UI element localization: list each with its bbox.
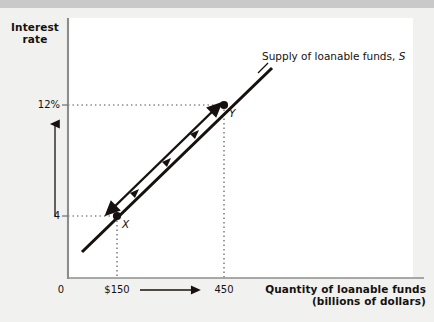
- point-x-label: X: [122, 219, 129, 231]
- x-tick-label-450: 450: [202, 284, 246, 295]
- y-tick-label-12: 12%: [24, 99, 60, 110]
- economics-supply-curve-figure: Interestrate Quantity of loanable funds(…: [0, 0, 434, 322]
- x-axis-title-line1: Quantity of loanable funds: [265, 283, 426, 295]
- supply-curve-label: Supply of loanable funds, S: [262, 51, 405, 63]
- point-y-label: Y: [229, 108, 235, 120]
- data-point-y: [220, 101, 228, 109]
- y-axis-title-line2: rate: [23, 33, 48, 45]
- y-axis-title: Interestrate: [6, 22, 64, 46]
- supply-curve-label-symbol: S: [399, 50, 406, 62]
- y-tick-label-4: 4: [24, 210, 60, 221]
- chart-graphics: [0, 0, 434, 322]
- movement-along-curve-arrow: [111, 108, 216, 210]
- x-tick-label-150: $150: [92, 284, 142, 295]
- x-axis-title-line2: (billions of dollars): [312, 295, 426, 307]
- x-tick-label-0: 0: [46, 284, 64, 295]
- supply-curve-label-text: Supply of loanable funds,: [262, 50, 395, 62]
- supply-curve: [82, 68, 272, 252]
- x-axis-title: Quantity of loanable funds(billions of d…: [265, 284, 426, 308]
- data-point-x: [113, 212, 121, 220]
- y-axis-title-line1: Interest: [11, 21, 59, 33]
